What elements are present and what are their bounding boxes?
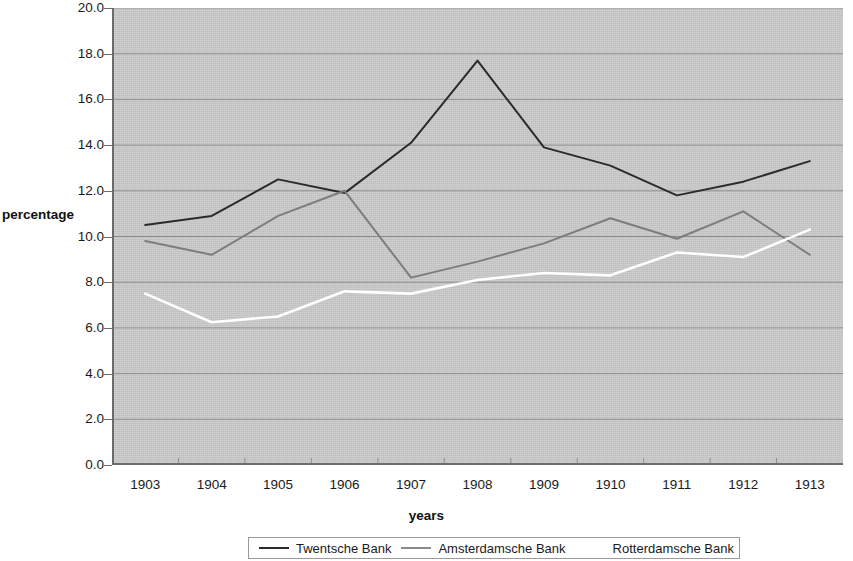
x-axis-tick-label: 1905 bbox=[243, 478, 313, 492]
legend-item[interactable]: Twentsche Bank bbox=[249, 538, 391, 558]
y-axis-tick-label: 12.0 bbox=[54, 184, 104, 198]
series-line-amsterdamsche-bank bbox=[145, 191, 810, 278]
legend-swatch-icon bbox=[576, 547, 606, 549]
legend-swatch-icon bbox=[401, 547, 431, 549]
x-axis-tick-label: 1908 bbox=[443, 478, 513, 492]
x-axis-tick-label: 1906 bbox=[310, 478, 380, 492]
y-axis-tick-mark bbox=[104, 328, 112, 329]
y-axis-tick-label: 18.0 bbox=[54, 47, 104, 61]
legend-label: Twentsche Bank bbox=[296, 542, 391, 555]
y-axis-tick-mark bbox=[104, 54, 112, 55]
x-axis-tick-label: 1911 bbox=[642, 478, 712, 492]
x-axis-title: years bbox=[0, 508, 853, 523]
y-axis-tick-label: 16.0 bbox=[54, 92, 104, 106]
y-axis-tick-label: 2.0 bbox=[54, 412, 104, 426]
y-axis-tick-mark bbox=[104, 465, 112, 466]
x-axis-tick-label: 1907 bbox=[376, 478, 446, 492]
y-axis-tick-label: 14.0 bbox=[54, 138, 104, 152]
y-axis-tick-mark bbox=[104, 8, 112, 9]
x-axis-tick-label: 1913 bbox=[775, 478, 845, 492]
y-axis-tick-mark bbox=[104, 237, 112, 238]
series-line-twentsche-bank bbox=[145, 61, 810, 226]
x-axis-tick-label: 1910 bbox=[575, 478, 645, 492]
x-axis-tick-label: 1909 bbox=[509, 478, 579, 492]
y-axis-tick-mark bbox=[104, 191, 112, 192]
legend-label: Rotterdamsche Bank bbox=[613, 542, 734, 555]
legend-label: Amsterdamsche Bank bbox=[438, 542, 565, 555]
y-axis-tick-mark bbox=[104, 145, 112, 146]
y-axis-tick-mark bbox=[104, 282, 112, 283]
y-axis-tick-label: 8.0 bbox=[54, 275, 104, 289]
chart-legend: Twentsche BankAmsterdamsche BankRotterda… bbox=[248, 537, 740, 559]
y-axis-tick-label: 10.0 bbox=[54, 230, 104, 244]
y-axis-line bbox=[112, 8, 114, 465]
y-axis-tick-label: 4.0 bbox=[54, 367, 104, 381]
legend-swatch-icon bbox=[259, 547, 289, 549]
y-axis-title: percentage bbox=[2, 207, 74, 222]
legend-item[interactable]: Rotterdamsche Bank bbox=[566, 538, 734, 558]
y-axis-tick-label: 20.0 bbox=[54, 1, 104, 15]
plot-svg bbox=[112, 8, 843, 465]
line-chart: 20.018.016.014.012.010.08.06.04.02.00.0 … bbox=[0, 0, 853, 561]
y-axis-tick-mark bbox=[104, 419, 112, 420]
y-axis-tick-label: 6.0 bbox=[54, 321, 104, 335]
series-line-rotterdamsche-bank bbox=[145, 230, 810, 323]
x-axis-tick-label: 1912 bbox=[708, 478, 778, 492]
plot-area bbox=[112, 8, 843, 465]
y-axis-tick-mark bbox=[104, 374, 112, 375]
legend-item[interactable]: Amsterdamsche Bank bbox=[391, 538, 565, 558]
y-axis-tick-mark bbox=[104, 99, 112, 100]
y-axis-tick-label: 0.0 bbox=[54, 458, 104, 472]
y-axis-tick-labels: 20.018.016.014.012.010.08.06.04.02.00.0 bbox=[52, 0, 104, 465]
x-axis-tick-label: 1903 bbox=[110, 478, 180, 492]
x-axis-line bbox=[112, 463, 843, 465]
x-axis-tick-label: 1904 bbox=[177, 478, 247, 492]
